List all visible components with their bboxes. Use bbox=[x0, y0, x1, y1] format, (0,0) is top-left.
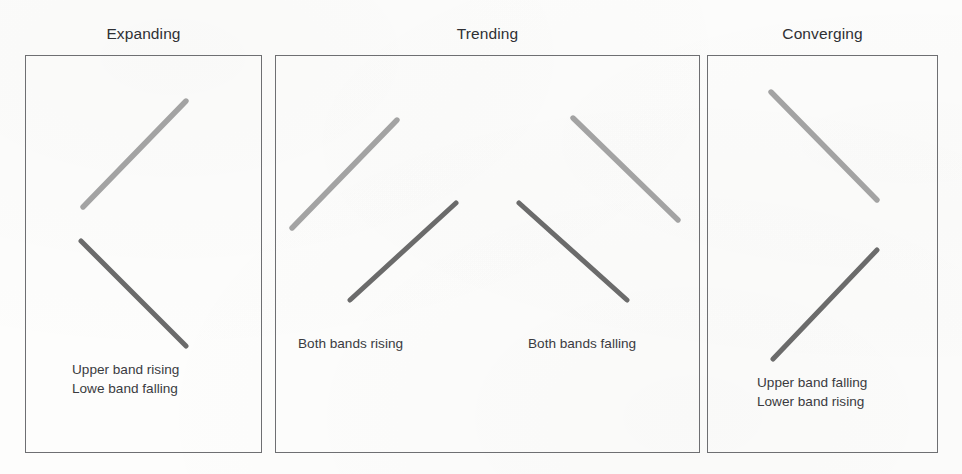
panel-box-trending bbox=[275, 55, 700, 453]
caption-line: Both bands rising bbox=[298, 335, 403, 354]
caption-expanding: Upper band rising Lowe band falling bbox=[72, 361, 179, 399]
caption-trending-falling: Both bands falling bbox=[528, 335, 636, 354]
panel-title-expanding: Expanding bbox=[25, 26, 262, 42]
figure-canvas: Expanding Upper band rising Lowe band fa… bbox=[0, 0, 962, 474]
caption-trending-rising: Both bands rising bbox=[298, 335, 403, 354]
caption-line: Lower band rising bbox=[757, 393, 867, 412]
caption-line: Lowe band falling bbox=[72, 380, 179, 399]
caption-converging: Upper band falling Lower band rising bbox=[757, 374, 867, 412]
caption-line: Upper band rising bbox=[72, 361, 179, 380]
panel-title-trending: Trending bbox=[275, 26, 700, 42]
caption-line: Upper band falling bbox=[757, 374, 867, 393]
caption-line: Both bands falling bbox=[528, 335, 636, 354]
panel-title-converging: Converging bbox=[707, 26, 938, 42]
